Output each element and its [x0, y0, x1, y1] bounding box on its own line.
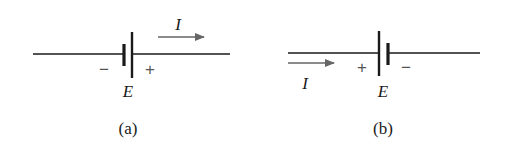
battery-label: E [122, 82, 134, 101]
positive-sign: + [357, 58, 367, 77]
panel-caption: (b) [373, 119, 393, 138]
panel-a: − + E I (a) [33, 15, 230, 138]
negative-sign: − [401, 58, 411, 77]
panel-b: + − E I (b) [288, 31, 480, 138]
positive-sign: + [145, 60, 155, 79]
current-label: I [174, 15, 182, 34]
battery-label: E [377, 82, 389, 101]
current-label: I [301, 74, 309, 93]
panel-caption: (a) [119, 119, 138, 138]
battery-current-diagram: − + E I (a) + − E I (b) [0, 0, 508, 145]
negative-sign: − [99, 60, 109, 79]
